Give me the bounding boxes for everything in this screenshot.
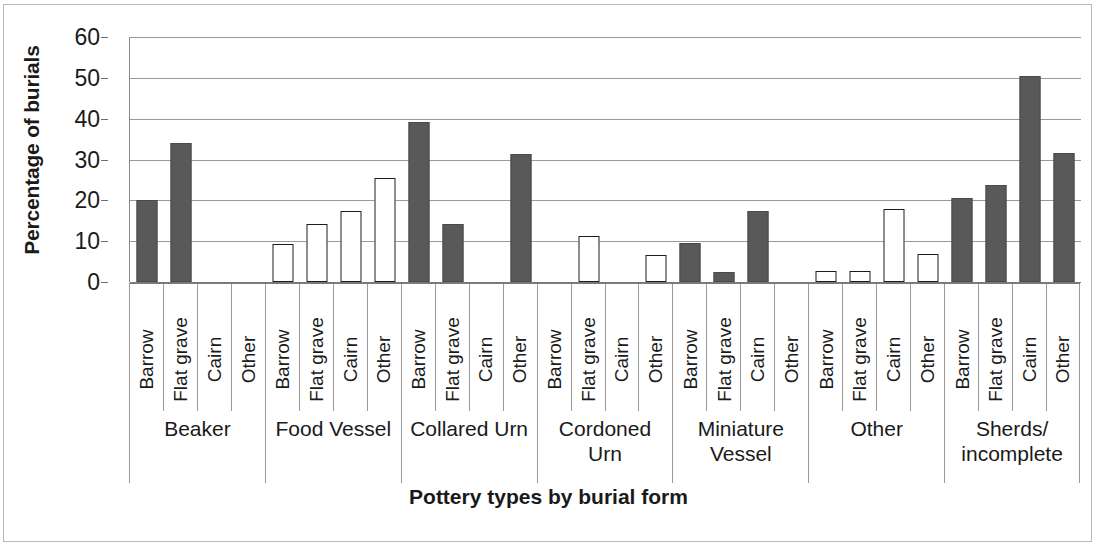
category-label-cairn: Cairn bbox=[469, 284, 503, 411]
category-label-barrow: Barrow bbox=[944, 284, 978, 411]
bar bbox=[714, 272, 735, 282]
category-label-text: Flat grave bbox=[850, 317, 869, 401]
category-label-flat-grave: Flat grave bbox=[978, 284, 1012, 411]
group-label-text: Cordoned Urn bbox=[559, 417, 651, 467]
bar bbox=[1020, 76, 1041, 282]
chart-figure: Percentage of burials 0102030405060 Barr… bbox=[3, 4, 1092, 542]
bar-slot bbox=[707, 37, 741, 282]
y-axis-tick-0: 0 bbox=[87, 271, 100, 294]
bar-slot bbox=[402, 37, 436, 282]
y-axis-tickmark bbox=[101, 119, 108, 120]
category-label-text: Other bbox=[782, 336, 801, 384]
group-label-text: Food Vessel bbox=[275, 417, 391, 442]
bar-slot bbox=[979, 37, 1013, 282]
category-label-text: Barrow bbox=[952, 329, 971, 389]
bar bbox=[340, 211, 361, 282]
category-label-text: Cairn bbox=[205, 337, 224, 382]
bar-slot bbox=[877, 37, 911, 282]
category-label-text: Other bbox=[511, 336, 530, 384]
category-label-text: Cairn bbox=[612, 337, 631, 382]
category-label-cairn: Cairn bbox=[605, 284, 639, 411]
category-label-text: Cairn bbox=[341, 337, 360, 382]
category-label-other: Other bbox=[231, 284, 265, 411]
y-axis-tickmark bbox=[101, 200, 108, 201]
bar-slot bbox=[436, 37, 470, 282]
category-label-barrow: Barrow bbox=[808, 284, 842, 411]
category-label-cairn: Cairn bbox=[1012, 284, 1046, 411]
category-label-other: Other bbox=[638, 284, 672, 411]
bar-slot bbox=[334, 37, 368, 282]
group-label-beaker: Beaker bbox=[129, 410, 265, 483]
bar bbox=[306, 224, 327, 282]
category-label-cairn: Cairn bbox=[740, 284, 774, 411]
category-label-text: Other bbox=[1054, 336, 1073, 384]
y-axis-tick-labels: 0102030405060 bbox=[50, 5, 108, 295]
category-label-barrow: Barrow bbox=[537, 284, 571, 411]
bar bbox=[510, 154, 531, 282]
bar bbox=[170, 143, 191, 282]
y-axis-title-text: Percentage of burials bbox=[20, 45, 44, 254]
bar bbox=[442, 224, 463, 282]
category-label-text: Barrow bbox=[545, 329, 564, 389]
y-axis-tickmark bbox=[101, 37, 108, 38]
category-label-other: Other bbox=[1046, 284, 1080, 411]
category-label-cairn: Cairn bbox=[197, 284, 231, 411]
bar bbox=[884, 209, 905, 282]
bar bbox=[680, 243, 701, 282]
category-label-band: BarrowFlat graveCairnOtherBarrowFlat gra… bbox=[129, 283, 1080, 410]
bar bbox=[408, 122, 429, 282]
category-label-text: Barrow bbox=[273, 329, 292, 389]
group-label-text: Miniature Vessel bbox=[698, 417, 784, 467]
group-label-band: BeakerFood VesselCollared UrnCordoned Ur… bbox=[129, 410, 1080, 483]
category-label-other: Other bbox=[910, 284, 944, 411]
category-label-barrow: Barrow bbox=[129, 284, 163, 411]
category-label-barrow: Barrow bbox=[401, 284, 435, 411]
bar bbox=[748, 211, 769, 282]
bar-slot bbox=[470, 37, 504, 282]
category-label-flat-grave: Flat grave bbox=[163, 284, 197, 411]
category-label-text: Cairn bbox=[477, 337, 496, 382]
bar-slot bbox=[945, 37, 979, 282]
category-label-flat-grave: Flat grave bbox=[842, 284, 876, 411]
category-label-text: Barrow bbox=[680, 329, 699, 389]
category-label-text: Barrow bbox=[137, 329, 156, 389]
bar-slot bbox=[1013, 37, 1047, 282]
category-label-text: Barrow bbox=[816, 329, 835, 389]
bar-slot bbox=[198, 37, 232, 282]
y-axis-tick-60: 60 bbox=[74, 26, 100, 49]
bar-slot bbox=[266, 37, 300, 282]
category-label-flat-grave: Flat grave bbox=[706, 284, 740, 411]
category-label-cairn: Cairn bbox=[876, 284, 910, 411]
y-axis-tick-20: 20 bbox=[74, 189, 100, 212]
bar-slot bbox=[775, 37, 809, 282]
category-label-text: Other bbox=[918, 336, 937, 384]
category-label-barrow: Barrow bbox=[265, 284, 299, 411]
category-label-text: Other bbox=[646, 336, 665, 384]
bar bbox=[136, 200, 157, 282]
bar bbox=[646, 255, 667, 282]
category-label-other: Other bbox=[367, 284, 401, 411]
group-label-other: Other bbox=[808, 410, 944, 483]
y-axis-title: Percentage of burials bbox=[12, 5, 52, 295]
category-label-barrow: Barrow bbox=[672, 284, 706, 411]
y-axis-tickmark bbox=[101, 241, 108, 242]
group-label-miniature-vessel: Miniature Vessel bbox=[672, 410, 808, 483]
bar-slot bbox=[606, 37, 640, 282]
bar bbox=[374, 178, 395, 282]
bar-slot bbox=[911, 37, 945, 282]
bar bbox=[850, 271, 871, 282]
y-axis-tick-10: 10 bbox=[74, 230, 100, 253]
category-label-text: Flat grave bbox=[171, 317, 190, 401]
category-label-other: Other bbox=[503, 284, 537, 411]
bar-slot bbox=[1047, 37, 1081, 282]
y-axis-tickmark bbox=[101, 282, 108, 283]
category-label-other: Other bbox=[774, 284, 808, 411]
bar bbox=[952, 198, 973, 282]
category-label-text: Flat grave bbox=[986, 317, 1005, 401]
category-label-flat-grave: Flat grave bbox=[299, 284, 333, 411]
category-label-cairn: Cairn bbox=[333, 284, 367, 411]
bar bbox=[1054, 153, 1075, 282]
bar bbox=[918, 254, 939, 282]
group-label-text: Sherds/ incomplete bbox=[961, 417, 1063, 467]
y-axis-tick-30: 30 bbox=[74, 148, 100, 171]
